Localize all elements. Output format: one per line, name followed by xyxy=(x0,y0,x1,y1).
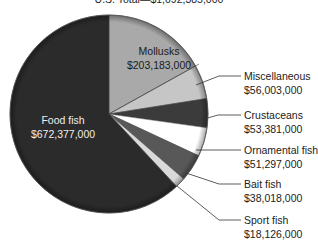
label-ornamental-fish-value: $51,297,000 xyxy=(244,158,303,170)
label-crustaceans-name: Crustaceans xyxy=(244,109,303,121)
label-bait-fish-name: Bait fish xyxy=(244,178,282,190)
label-food-fish-value: $672,377,000 xyxy=(31,128,95,140)
pie-chart: Mollusks $203,183,000 Food fish $672,377… xyxy=(0,0,318,247)
label-miscellaneous-name: Miscellaneous xyxy=(244,70,311,82)
label-ornamental-fish-name: Ornamental fish xyxy=(244,144,318,156)
label-mollusks-name: Mollusks xyxy=(139,45,180,57)
label-sport-fish-value: $18,126,000 xyxy=(244,228,303,240)
label-bait-fish-value: $38,018,000 xyxy=(244,192,303,204)
label-crustaceans-value: $53,381,000 xyxy=(244,123,303,135)
label-miscellaneous-value: $56,003,000 xyxy=(244,84,303,96)
leader-line-sport-fish xyxy=(177,186,241,220)
label-food-fish-name: Food fish xyxy=(41,114,84,126)
label-mollusks-value: $203,183,000 xyxy=(127,59,191,71)
leader-line-bait-fish xyxy=(186,173,241,184)
label-sport-fish-name: Sport fish xyxy=(244,214,289,226)
